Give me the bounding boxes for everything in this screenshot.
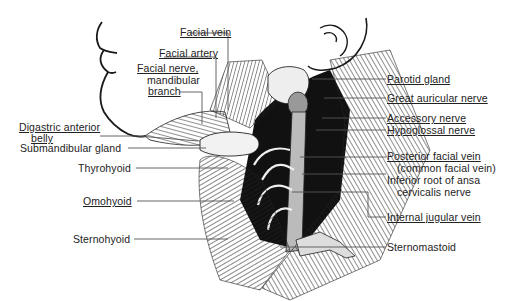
label-omohyoid: Omohyoid xyxy=(83,195,132,207)
submandibular-gland-shape xyxy=(200,132,259,156)
label-great-auricular-nerve: Great auricular nerve xyxy=(387,92,488,104)
label-facial-vein: Facial vein xyxy=(180,26,231,38)
label-facial-artery: Facial artery xyxy=(159,47,218,59)
label-parotid-gland: Parotid gland xyxy=(387,73,450,85)
ear-outline xyxy=(320,25,347,56)
label-facial-nerve-line1: Facial nerve, xyxy=(137,62,198,74)
label-thyrohyoid: Thyrohyoid xyxy=(78,162,131,174)
anatomy-diagram: Facial vein Facial artery Facial nerve, … xyxy=(0,0,516,301)
label-hypoglossal-nerve: Hypoglossal nerve xyxy=(387,124,475,136)
face-profile-outline xyxy=(97,22,146,137)
label-ansa-cervicalis-line1: Inferior root of ansa xyxy=(387,174,480,186)
label-sternomastoid: Sternomastoid xyxy=(387,241,456,253)
label-submandibular-gland: Submandibular gland xyxy=(20,142,121,154)
label-posterior-facial-vein-line2: (common facial vein) xyxy=(397,162,496,174)
label-sternohyoid: Sternohyoid xyxy=(73,233,130,245)
label-posterior-facial-vein-line1: Posterior facial vein xyxy=(387,150,481,162)
label-ansa-cervicalis-line2: cervicalis nerve xyxy=(397,186,471,198)
label-accessory-nerve: Accessory nerve xyxy=(387,112,466,124)
label-facial-nerve-line3: branch xyxy=(148,85,181,97)
label-internal-jugular-vein: Internal jugular vein xyxy=(387,211,481,223)
